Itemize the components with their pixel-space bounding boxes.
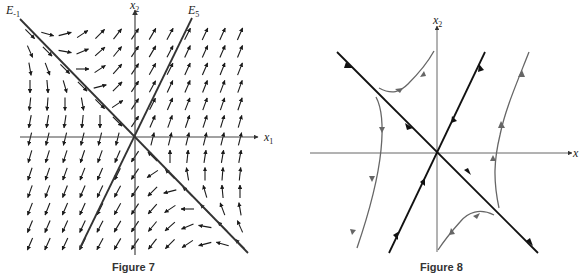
direction-arrow (47, 98, 48, 111)
direction-arrow (59, 32, 72, 35)
direction-arrow (41, 32, 53, 36)
direction-arrow (221, 150, 223, 163)
direction-arrow (202, 46, 207, 58)
direction-arrow (62, 238, 68, 250)
direction-arrow (182, 224, 194, 229)
direction-arrow (149, 81, 155, 92)
direction-arrow (220, 98, 224, 110)
direction-arrow (46, 150, 50, 162)
trajectories (357, 51, 529, 250)
direction-arrow (199, 225, 212, 227)
direction-arrow (80, 168, 85, 180)
direction-arrow (204, 150, 206, 163)
direction-field-plot (0, 0, 280, 269)
direction-arrow (98, 150, 102, 162)
direction-arrow (149, 239, 157, 249)
direction-arrow (25, 29, 34, 38)
direction-arrow (81, 133, 84, 146)
direction-arrow (29, 63, 31, 76)
figure-8-caption: Figure 8 (420, 262, 463, 273)
phase-portrait-plot (300, 0, 579, 269)
direction-arrow (114, 238, 121, 249)
direction-arrow (63, 168, 67, 180)
direction-arrow (185, 63, 190, 75)
direction-arrow (202, 28, 208, 40)
direction-arrow (237, 28, 242, 40)
direction-arrow (149, 46, 156, 57)
direction-arrow (112, 100, 123, 107)
direction-arrow (238, 133, 241, 146)
direction-arrow (77, 30, 88, 37)
direction-arrow (203, 115, 207, 127)
direction-arrow (151, 133, 154, 146)
x2-axis-label: x2 (130, 0, 139, 14)
figure-7-caption: Figure 7 (112, 262, 155, 273)
direction-arrow (164, 190, 177, 193)
direction-arrow (28, 203, 33, 215)
direction-arrow (220, 46, 225, 58)
direction-arrow (45, 238, 50, 250)
direction-arrow (222, 168, 223, 181)
direction-arrow (239, 203, 241, 216)
direction-arrow (82, 115, 83, 128)
direction-arrow (150, 116, 155, 128)
direction-arrow (27, 46, 32, 58)
direction-arrow (199, 242, 212, 245)
direction-arrow (148, 152, 157, 161)
direction-arrow (45, 63, 50, 75)
x2-axis-label: x2 (433, 14, 442, 29)
direction-arrow (113, 47, 121, 57)
direction-arrow (220, 63, 225, 75)
direction-arrow (220, 203, 225, 215)
direction-arrow (185, 46, 191, 58)
direction-arrow (114, 221, 121, 232)
direction-arrow (28, 221, 33, 233)
direction-arrow (148, 204, 157, 214)
direction-arrow (187, 150, 188, 163)
direction-arrow (80, 203, 85, 215)
direction-arrow (239, 168, 240, 181)
x1-axis-label: x1 (264, 131, 273, 146)
eigenline-e-5-label: E5 (188, 4, 199, 19)
direction-arrow (239, 150, 241, 163)
direction-arrow (186, 133, 189, 146)
direction-arrow (185, 98, 190, 110)
direction-arrow (63, 80, 67, 92)
direction-arrow (80, 150, 84, 162)
direction-arrow (63, 133, 66, 146)
direction-arrow (29, 115, 31, 128)
direction-arrow (167, 28, 173, 39)
direction-arrow (115, 151, 120, 163)
direction-arrow (222, 185, 223, 198)
direction-arrow (97, 238, 103, 249)
direction-arrow (168, 133, 171, 146)
direction-arrow (237, 221, 242, 233)
direction-arrow (182, 240, 193, 247)
eigenline-e-minus-1-label: E-1 (6, 4, 20, 19)
direction-arrow (45, 203, 50, 215)
direction-arrow (77, 49, 89, 54)
direction-arrow (114, 29, 122, 39)
direction-arrow (238, 63, 243, 75)
direction-arrow (97, 168, 102, 180)
direction-arrow (94, 85, 107, 88)
direction-arrow (113, 64, 122, 74)
direction-arrow (238, 98, 242, 110)
direction-arrow (167, 46, 173, 58)
direction-arrow (165, 205, 176, 212)
direction-arrow (167, 81, 173, 93)
direction-arrow (64, 115, 66, 128)
direction-arrow (62, 203, 67, 215)
figure-7-direction-field: E-1 E5 x2 x1 Figure 7 (0, 0, 280, 269)
direction-arrow (149, 28, 156, 39)
direction-arrow (28, 168, 32, 180)
direction-arrow (185, 81, 190, 93)
direction-arrow (116, 133, 119, 146)
direction-arrow (62, 221, 67, 233)
direction-arrow (46, 115, 48, 128)
direction-arrow (114, 186, 120, 197)
direction-arrow (238, 115, 242, 127)
direction-arrow (185, 115, 189, 127)
direction-arrow (28, 150, 32, 162)
direction-arrow (238, 46, 243, 58)
